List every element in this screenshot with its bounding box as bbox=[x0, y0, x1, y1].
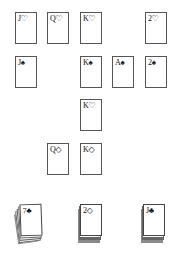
card-label: J♠ bbox=[18, 58, 25, 67]
middle-stack[interactable]: 2◇ bbox=[76, 203, 106, 245]
card-label: A♠ bbox=[115, 58, 124, 67]
card-two-of-diamonds[interactable]: 2◇ bbox=[80, 204, 102, 236]
card-queen-of-diamonds[interactable]: Q◇ bbox=[47, 143, 69, 175]
card-jack-of-clubs[interactable]: J♣ bbox=[143, 204, 165, 236]
card-king-of-spades[interactable]: K♠ bbox=[80, 56, 102, 88]
card-king-of-hearts[interactable]: K♡ bbox=[80, 12, 102, 44]
card-two-of-spades[interactable]: 2♠ bbox=[145, 56, 167, 88]
card-label: K♠ bbox=[83, 58, 92, 67]
card-queen-of-hearts[interactable]: Q♡ bbox=[47, 12, 69, 44]
card-label: J♡ bbox=[18, 14, 28, 23]
card-label: J♣ bbox=[146, 206, 154, 215]
card-label: Q◇ bbox=[50, 145, 61, 154]
card-label: 2♡ bbox=[148, 14, 159, 23]
card-label: K♡ bbox=[83, 14, 95, 23]
card-label: 2♠ bbox=[148, 58, 156, 67]
card-seven-of-clubs[interactable]: 7♣ bbox=[19, 204, 42, 237]
card-label: K◇ bbox=[83, 145, 94, 154]
card-label: Q♡ bbox=[50, 14, 62, 23]
card-label: 7♣ bbox=[23, 206, 32, 215]
card-jack-of-spades[interactable]: J♠ bbox=[15, 56, 37, 88]
left-stack[interactable]: 7♣ bbox=[14, 203, 44, 245]
card-king-of-hearts-2[interactable]: K♡ bbox=[80, 99, 102, 131]
card-label: 2◇ bbox=[83, 206, 93, 215]
right-stack[interactable]: J♣ bbox=[139, 203, 169, 245]
card-ace-of-spades[interactable]: A♠ bbox=[112, 56, 134, 88]
card-jack-of-hearts[interactable]: J♡ bbox=[15, 12, 37, 44]
card-two-of-hearts[interactable]: 2♡ bbox=[145, 12, 167, 44]
card-label: K♡ bbox=[83, 101, 95, 110]
card-king-of-diamonds[interactable]: K◇ bbox=[80, 143, 102, 175]
